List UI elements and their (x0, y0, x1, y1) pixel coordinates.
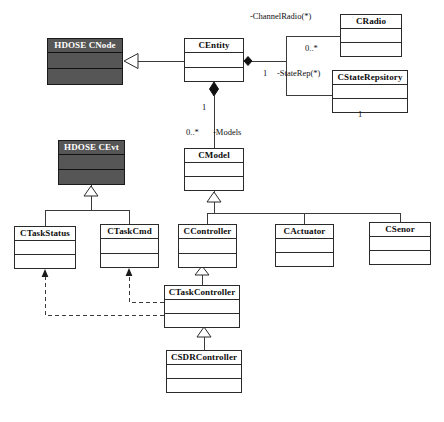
class-name-cactuator: CActuator (276, 225, 333, 239)
class-attributes-csenor (370, 237, 430, 251)
class-operations-cactuator (276, 253, 333, 266)
class-name-cradio: CRadio (341, 15, 401, 29)
class-box-cmodel[interactable]: CModel (184, 148, 244, 191)
class-box-cactuator[interactable]: CActuator (275, 224, 334, 267)
class-attributes-cactuator (276, 239, 333, 253)
class-name-csenor: CSenor (370, 223, 430, 237)
class-operations-hdose-cevt (59, 170, 124, 184)
class-attributes-hdose-cnode (48, 53, 122, 69)
class-operations-ctaskcontroller (165, 314, 239, 327)
class-operations-ctaskstatus (15, 255, 75, 268)
class-name-csdrcontroller: CSDRController (167, 351, 241, 365)
class-box-ctaskcontroller[interactable]: CTaskController (164, 285, 240, 328)
class-name-centity: CEntity (185, 39, 243, 53)
class-attributes-cstaterepsitory (333, 85, 407, 99)
class-attributes-ctaskcontroller (165, 300, 239, 314)
class-box-ctaskstatus[interactable]: CTaskStatus (14, 226, 76, 269)
dependency-ctaskcontroller-to-ctaskcmd (126, 268, 164, 302)
class-box-cradio[interactable]: CRadio (340, 14, 402, 57)
composition-centity-to-cmodel (210, 82, 219, 148)
class-operations-csdrcontroller (167, 379, 241, 392)
class-operations-cradio (341, 43, 401, 56)
generalization-csdrcontroller-to-ctaskcontroller (197, 327, 211, 350)
class-name-ccontroller: CController (179, 225, 236, 239)
composition-centity-to-cstaterepsitory (286, 61, 332, 95)
class-name-ctaskcmd: CTaskCmd (101, 225, 158, 239)
class-operations-csenor (370, 251, 430, 264)
edge-label-channelradio: -ChannelRadio(*) (250, 12, 311, 21)
class-box-cstaterepsitory[interactable]: CStateRepsitory (332, 70, 408, 113)
class-operations-ctaskcmd (101, 254, 158, 268)
edge-label-cradio-multiplicity: 0..* (305, 44, 318, 53)
class-box-hdose-cevt[interactable]: HDOSE CEvt (58, 140, 125, 185)
class-name-ctaskstatus: CTaskStatus (15, 227, 75, 241)
class-operations-hdose-cnode (48, 69, 122, 84)
edge-label-staterep: -StateRep(*) (277, 69, 320, 78)
generalization-centity-to-hdose-cnode (124, 54, 184, 69)
class-attributes-cmodel (185, 163, 243, 177)
class-name-hdose-cevt: HDOSE CEvt (59, 141, 124, 155)
class-name-ctaskcontroller: CTaskController (165, 286, 239, 300)
class-operations-centity (185, 68, 243, 82)
composition-centity-to-cradio (244, 36, 340, 66)
uml-class-diagram: HDOSE CNode CEntity CRadio CStateRepsito… (0, 0, 444, 422)
class-name-hdose-cnode: HDOSE CNode (48, 39, 122, 53)
generalization-models-to-cmodel (207, 191, 400, 224)
class-attributes-centity (185, 53, 243, 68)
class-attributes-ctaskstatus (15, 241, 75, 255)
class-box-ctaskcmd[interactable]: CTaskCmd (100, 224, 159, 268)
class-attributes-hdose-cevt (59, 155, 124, 170)
dependency-ctaskcontroller-to-ctaskstatus (42, 269, 164, 315)
class-operations-cstaterepsitory (333, 99, 407, 112)
class-name-cmodel: CModel (185, 149, 243, 163)
class-box-hdose-cnode[interactable]: HDOSE CNode (47, 38, 123, 85)
class-attributes-ccontroller (179, 239, 236, 254)
generalization-ctaskcontroller-to-ccontroller (195, 266, 209, 285)
edge-label-models-source-multiplicity: 1 (202, 103, 206, 112)
edge-label-models: -Models (213, 128, 241, 137)
class-operations-ccontroller (179, 254, 236, 268)
class-box-centity[interactable]: CEntity (184, 38, 244, 82)
class-attributes-csdrcontroller (167, 365, 241, 379)
class-box-ccontroller[interactable]: CController (178, 224, 237, 268)
edge-label-centity-multiplicity: 1 (263, 69, 267, 78)
class-attributes-ctaskcmd (101, 239, 158, 254)
generalization-taskevents-to-hdose-cevt (45, 185, 129, 226)
edge-label-staterep-multiplicity: 1 (358, 110, 362, 119)
edge-label-models-target-multiplicity: 0..* (186, 128, 199, 137)
class-name-cstaterepsitory: CStateRepsitory (333, 71, 407, 85)
class-attributes-cradio (341, 29, 401, 43)
class-box-csdrcontroller[interactable]: CSDRController (166, 350, 242, 393)
class-operations-cmodel (185, 177, 243, 190)
class-box-csenor[interactable]: CSenor (369, 222, 431, 265)
